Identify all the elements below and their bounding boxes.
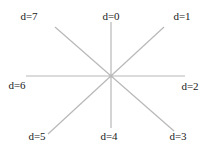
label-d6: d=6: [8, 80, 25, 91]
line-diagonal-d7-d3: [55, 27, 174, 131]
center-point: [110, 75, 113, 78]
direction-lines: [0, 0, 206, 149]
label-d5: d=5: [28, 131, 45, 142]
label-d2: d=2: [181, 81, 198, 92]
label-d1: d=1: [173, 11, 190, 22]
label-d4: d=4: [100, 131, 117, 142]
direction-diagram: d=0 d=1 d=2 d=3 d=4 d=5 d=6 d=7: [0, 0, 206, 149]
line-diagonal-d1-d5: [48, 27, 164, 134]
label-d0: d=0: [102, 11, 119, 22]
label-d3: d=3: [169, 131, 186, 142]
label-d7: d=7: [20, 11, 37, 22]
